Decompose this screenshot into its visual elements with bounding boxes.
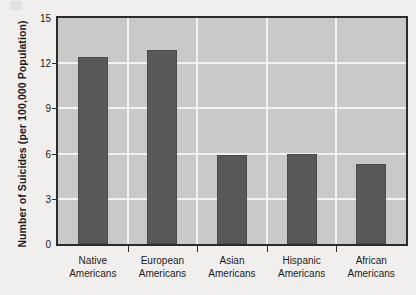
x-axis-category-label: AsianAmericans <box>197 255 267 280</box>
y-axis-title: Number of Suicides (per 100,000 Populati… <box>16 9 28 259</box>
gridline-vertical <box>266 18 268 244</box>
x-axis-category-label-line: Americans <box>128 268 198 281</box>
x-axis-tick-mark <box>267 246 268 252</box>
x-axis-category-label: AfricanAmericans <box>336 255 406 280</box>
x-axis-category-label-line: European <box>128 255 198 268</box>
y-axis-tick-label: 6 <box>30 148 51 159</box>
bar-chart-figure: Number of Suicides (per 100,000 Populati… <box>0 0 416 295</box>
bar <box>287 154 317 244</box>
y-axis-tick-label: 3 <box>30 193 51 204</box>
x-axis-category-label-line: Asian <box>197 255 267 268</box>
x-axis-category-label: NativeAmericans <box>58 255 128 280</box>
x-axis-tick-mark <box>336 246 337 252</box>
gridline-horizontal <box>58 107 406 109</box>
gridline-vertical <box>196 18 198 244</box>
x-axis-category-label-line: African <box>336 255 406 268</box>
bar <box>217 155 247 244</box>
plot-inner <box>58 18 406 244</box>
bar <box>78 57 108 244</box>
plot-area <box>56 16 408 246</box>
x-axis-category-label-line: Americans <box>336 268 406 281</box>
x-axis-tick-mark <box>128 246 129 252</box>
y-axis-tick-label: 12 <box>30 58 51 69</box>
gridline-vertical <box>127 18 129 244</box>
x-axis-tick-mark <box>197 246 198 252</box>
y-axis-tick-label: 9 <box>30 103 51 114</box>
bar <box>147 50 177 244</box>
x-axis-category-label-line: Native <box>58 255 128 268</box>
y-axis-tick-label: 15 <box>30 13 51 24</box>
bar <box>356 164 386 244</box>
x-axis-category-label-line: Hispanic <box>267 255 337 268</box>
x-axis-category-label: HispanicAmericans <box>267 255 337 280</box>
x-axis-category-label-line: Americans <box>58 268 128 281</box>
x-axis-category-label: EuropeanAmericans <box>128 255 198 280</box>
gridline-horizontal <box>58 62 406 64</box>
x-axis-category-label-line: Americans <box>197 268 267 281</box>
y-axis-tick-label: 0 <box>30 239 51 250</box>
gridline-vertical <box>335 18 337 244</box>
x-axis-category-label-line: Americans <box>267 268 337 281</box>
